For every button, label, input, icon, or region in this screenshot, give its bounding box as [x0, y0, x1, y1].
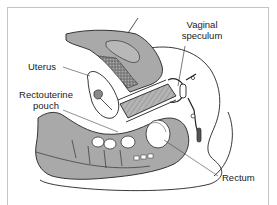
label-rectouterine-line2: pouch: [15, 100, 77, 111]
bladder-pubic-region: [66, 18, 163, 92]
rectum-colon: [36, 112, 189, 179]
label-rectum: Rectum: [222, 172, 255, 183]
label-uterus-text: Uterus: [28, 61, 56, 72]
uterus-shape: [87, 71, 118, 118]
label-rectum-text: Rectum: [222, 172, 255, 183]
label-vaginal-speculum-line1: Vaginal: [178, 19, 226, 30]
label-rectouterine-pouch: Rectouterine pouch: [15, 89, 77, 111]
label-uterus: Uterus: [28, 61, 56, 72]
label-vaginal-speculum-line2: speculum: [178, 30, 226, 41]
label-vaginal-speculum: Vaginal speculum: [178, 19, 226, 41]
label-rectouterine-line1: Rectouterine: [15, 89, 77, 100]
